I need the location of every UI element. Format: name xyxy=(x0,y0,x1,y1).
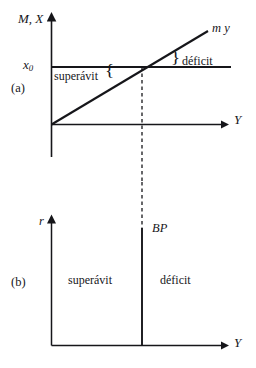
panel-a-y-axis-label: M, X xyxy=(18,12,43,25)
panel-a-imports-line-label: m y xyxy=(212,22,230,35)
panel-b-x-axis-label: Y xyxy=(234,336,241,349)
panel-b-bp-label: BP xyxy=(152,222,167,235)
panel-a-x-axis-label: Y xyxy=(234,113,241,126)
economics-figure: M, X x0 (a) superávit { } déficit m y Y … xyxy=(0,0,256,368)
panel-a-level-label-subscript: 0 xyxy=(29,63,33,73)
panel-a-superavit-brace-icon: { xyxy=(105,62,114,78)
panel-b-tag: (b) xyxy=(11,276,26,289)
panel-b-deficit-label: déficit xyxy=(160,274,191,286)
panel-a-deficit-label: déficit xyxy=(182,55,213,67)
panel-a-graph xyxy=(52,20,232,182)
panel-a-superavit-label: superávit xyxy=(54,70,98,82)
panel-b-y-axis-label: r xyxy=(39,215,44,228)
panel-a-tag: (a) xyxy=(11,82,25,95)
panel-a-imports-label-y: y xyxy=(224,21,230,35)
panel-b-superavit-label: superávit xyxy=(68,274,112,286)
panel-a-imports-label-m: m xyxy=(212,21,221,35)
panel-a-level-label-x0: x0 xyxy=(23,58,33,73)
panel-a-deficit-brace-icon: } xyxy=(171,49,180,65)
figure-canvas xyxy=(0,0,256,368)
panel-b-graph xyxy=(52,182,223,346)
